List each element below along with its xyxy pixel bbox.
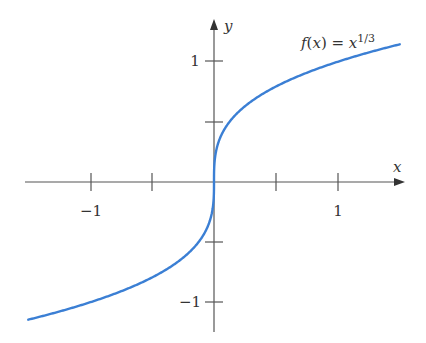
y-tick-label-1: 1 bbox=[190, 52, 200, 70]
x-axis-label: x bbox=[393, 158, 402, 176]
y-axis-arrow-icon bbox=[210, 19, 218, 30]
x-axis-arrow-icon bbox=[394, 178, 405, 186]
chart: −1 1 1 −1 y x f(x) = x1/3 bbox=[0, 0, 426, 343]
x-tick-label-1: 1 bbox=[333, 202, 343, 220]
y-axis-label: y bbox=[223, 17, 233, 35]
function-label: f(x) = x1/3 bbox=[300, 32, 375, 52]
y-tick-label-neg1: −1 bbox=[179, 293, 201, 311]
x-tick-label-neg1: −1 bbox=[80, 202, 102, 220]
